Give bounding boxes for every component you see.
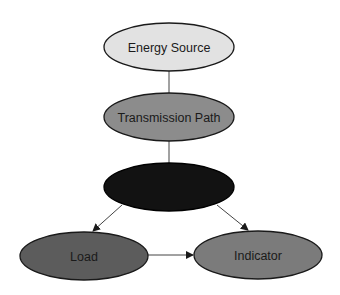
node-shape xyxy=(104,163,234,211)
edge-middle-to-load xyxy=(93,205,122,231)
node-load: Load xyxy=(20,232,148,280)
node-indicator: Indicator xyxy=(194,231,322,279)
node-label: Indicator xyxy=(234,249,282,263)
edge-middle-to-indicator xyxy=(217,205,248,230)
node-transmission-path: Transmission Path xyxy=(104,93,234,141)
node-label: Transmission Path xyxy=(117,111,220,125)
flow-diagram: Energy Source Transmission Path Load Ind… xyxy=(0,0,340,295)
node-unlabeled xyxy=(104,163,234,211)
node-label: Energy Source xyxy=(128,41,211,55)
node-energy-source: Energy Source xyxy=(104,23,234,71)
node-label: Load xyxy=(70,250,98,264)
